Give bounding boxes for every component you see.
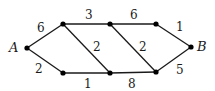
node-a <box>24 45 29 50</box>
edge-N3-B <box>156 24 191 47</box>
node-label-b: B <box>196 39 207 54</box>
edge-weight-label: 5 <box>176 63 184 77</box>
node-b <box>188 44 193 49</box>
edge-A-N4 <box>27 48 63 73</box>
edge-weight-label: 3 <box>85 8 93 22</box>
node-n1 <box>60 21 65 26</box>
graph-labels: 6232162815AB <box>8 8 207 91</box>
edge-weight-label: 2 <box>139 40 147 54</box>
edge-N5-N6 <box>110 72 156 73</box>
node-n5 <box>107 70 112 75</box>
edge-N1-N5 <box>63 24 110 73</box>
edge-N2-N6 <box>110 24 156 72</box>
edge-N6-B <box>156 47 191 72</box>
node-n3 <box>153 21 158 26</box>
node-n2 <box>107 21 112 26</box>
edge-weight-label: 6 <box>37 21 45 35</box>
edge-weight-label: 2 <box>93 40 101 54</box>
node-label-a: A <box>8 40 18 55</box>
node-n4 <box>60 70 65 75</box>
weighted-graph-diagram: 6232162815AB <box>0 0 215 91</box>
edge-weight-label: 2 <box>35 62 43 76</box>
graph-edges <box>27 24 191 73</box>
edge-weight-label: 6 <box>130 8 138 22</box>
edge-weight-label: 1 <box>176 20 184 34</box>
node-n6 <box>153 69 158 74</box>
graph-nodes <box>24 21 193 75</box>
edge-weight-label: 1 <box>84 77 92 91</box>
edge-A-N1 <box>27 24 63 48</box>
edge-weight-label: 8 <box>128 77 136 91</box>
